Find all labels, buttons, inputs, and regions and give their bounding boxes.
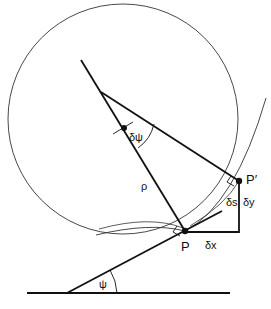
label-radius: ρ <box>141 180 147 192</box>
normal-line-p-prime <box>101 92 239 181</box>
center-point <box>121 125 127 131</box>
normal-line-p <box>81 60 185 231</box>
tangent-line <box>67 211 222 293</box>
psi-angle-arc <box>110 270 117 293</box>
point-p-prime <box>236 178 242 184</box>
label-delta-y: δy <box>243 196 255 208</box>
curvature-diagram: P P′ ρ δψ δs δy δx ψ <box>0 0 271 309</box>
label-p-prime: P′ <box>246 172 258 187</box>
circle-of-curvature <box>8 4 238 234</box>
label-psi: ψ <box>99 278 107 290</box>
label-delta-x: δx <box>205 239 217 251</box>
point-p <box>182 228 188 234</box>
curve-path <box>96 98 266 235</box>
label-p: P <box>181 239 190 254</box>
label-delta-psi: δψ <box>129 131 143 143</box>
label-delta-s: δs <box>226 196 238 208</box>
